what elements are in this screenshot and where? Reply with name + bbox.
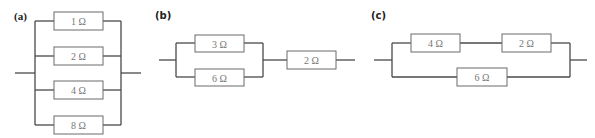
resistor-b-3: 2 Ω — [287, 51, 336, 69]
circuit-diagrams: (a) 1 Ω 2 Ω 4 Ω 8 Ω — [0, 0, 595, 138]
resistor-c-3: 6 Ω — [457, 68, 507, 86]
resistor-a-2: 2 Ω — [54, 47, 103, 65]
circuit-b: (b) 3 Ω 6 Ω 2 Ω — [155, 10, 355, 86]
resistor-b-2: 6 Ω — [195, 69, 244, 86]
resistor-c-2: 2 Ω — [502, 34, 551, 52]
resistor-value: 4 Ω — [71, 85, 86, 96]
resistor-value: 3 Ω — [212, 39, 227, 50]
circuit-b-label: (b) — [155, 10, 171, 21]
resistor-b-1: 3 Ω — [195, 35, 244, 52]
resistor-value: 4 Ω — [428, 38, 443, 49]
circuit-a-label: (a) — [14, 10, 27, 23]
resistor-value: 2 Ω — [519, 38, 534, 49]
resistor-value: 8 Ω — [71, 120, 86, 131]
circuit-c-label: (c) — [371, 10, 386, 21]
resistor-value: 2 Ω — [71, 51, 86, 62]
resistor-value: 1 Ω — [71, 16, 86, 27]
resistor-a-4: 8 Ω — [54, 116, 103, 134]
resistor-value: 6 Ω — [212, 73, 227, 84]
circuit-c: (c) 4 Ω 2 Ω 6 Ω — [371, 10, 587, 86]
resistor-c-1: 4 Ω — [411, 34, 460, 52]
resistor-value: 2 Ω — [304, 55, 319, 66]
resistor-a-1: 1 Ω — [54, 12, 103, 30]
resistor-value: 6 Ω — [475, 72, 490, 83]
resistor-a-3: 4 Ω — [54, 81, 103, 99]
circuit-a: (a) 1 Ω 2 Ω 4 Ω 8 Ω — [14, 10, 141, 134]
